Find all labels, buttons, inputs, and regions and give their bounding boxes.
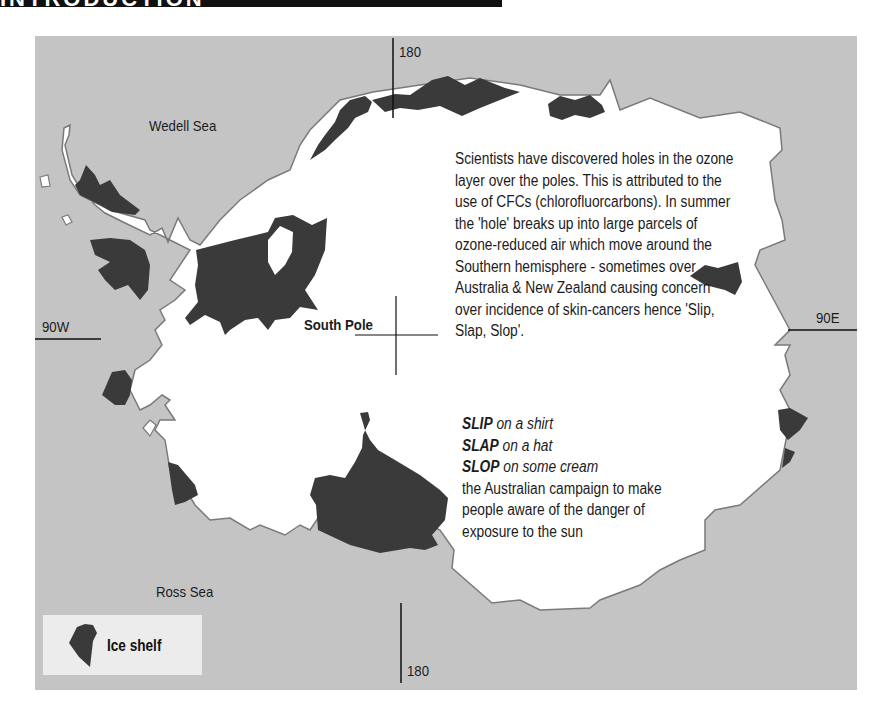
slogan-word: SLOP <box>462 458 499 475</box>
slogan-rest: on a hat <box>503 437 553 454</box>
slogan-slip: SLIP on a shirt <box>462 413 754 435</box>
slogan-rest: on a shirt <box>496 415 553 432</box>
slogan-slap: SLAP on a hat <box>462 435 754 457</box>
label-wedell-sea: Wedell Sea <box>149 117 216 134</box>
slogan-block: SLIP on a shirt SLAP on a hat SLOP on so… <box>462 413 754 542</box>
label-180-top: 180 <box>399 43 421 60</box>
label-90e: 90E <box>816 309 839 326</box>
header-title-fragment: INTRODUCTION <box>0 0 205 12</box>
slogan-slop: SLOP on some cream <box>462 456 754 478</box>
island-1 <box>40 175 50 187</box>
ice-shelf-swatch-icon <box>65 621 105 669</box>
label-90w: 90W <box>42 318 69 335</box>
ice-shelf-peninsula-upper <box>75 165 140 215</box>
ice-shelf-peninsula-lower <box>90 238 150 300</box>
label-south-pole: South Pole <box>304 316 373 333</box>
legend-label-ice-shelf: Ice shelf <box>107 637 161 655</box>
slogan-rest: on some cream <box>503 458 598 475</box>
campaign-note: the Australian campaign to make people a… <box>462 478 677 543</box>
header-bar: INTRODUCTION <box>0 0 502 7</box>
island-2 <box>62 215 72 225</box>
label-ross-sea: Ross Sea <box>156 583 213 600</box>
island-3 <box>143 420 156 436</box>
ozone-paragraph: Scientists have discovered holes in the … <box>455 148 739 342</box>
label-180-bottom: 180 <box>407 662 429 679</box>
ozone-paragraph-text: Scientists have discovered holes in the … <box>455 148 739 342</box>
ice-shelf-left-west <box>102 370 132 405</box>
slogan-word: SLAP <box>462 437 499 454</box>
slogan-word: SLIP <box>462 415 493 432</box>
